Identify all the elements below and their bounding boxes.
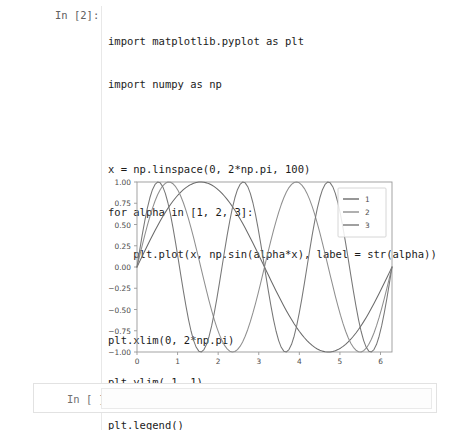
y-tick-label: −0.50 (108, 306, 131, 315)
y-tick-label: 0.75 (115, 199, 132, 208)
y-tick-label: −1.00 (108, 348, 131, 357)
code-cell[interactable]: In [2]: import matplotlib.pyplot as plt … (0, 0, 460, 175)
code-line: import matplotlib.pyplot as plt (108, 34, 438, 48)
x-tick-label: 5 (338, 357, 343, 366)
x-axis-tick-labels: 0123456 (135, 357, 384, 366)
code-line: import numpy as np (108, 77, 438, 91)
code-line (108, 120, 438, 134)
x-tick-label: 1 (175, 357, 180, 366)
y-tick-label: 0.25 (115, 242, 132, 251)
x-tick-label: 3 (256, 357, 261, 366)
y-tick-label: −0.25 (108, 284, 131, 293)
x-tick-label: 2 (216, 357, 221, 366)
input-cell[interactable]: In [ ]: (33, 383, 437, 413)
y-axis-tick-labels: 1.000.750.500.250.00−0.25−0.50−0.75−1.00 (108, 178, 131, 357)
legend-label: 3 (365, 221, 370, 230)
legend-label: 1 (365, 195, 370, 204)
figure-output: 1.000.750.500.250.00−0.25−0.50−0.75−1.00… (96, 174, 396, 366)
y-tick-label: 0.00 (115, 263, 132, 272)
sine-waves-plot: 1.000.750.500.250.00−0.25−0.50−0.75−1.00… (96, 174, 396, 366)
input-cell-editor[interactable] (101, 388, 432, 409)
x-tick-label: 6 (378, 357, 383, 366)
code-input-field[interactable] (102, 391, 431, 410)
x-tick-label: 0 (135, 357, 140, 366)
code-cell-prompt: In [2]: (55, 9, 99, 21)
y-tick-label: 0.50 (115, 221, 132, 230)
x-axis-tick-marks (137, 352, 381, 355)
code-line: plt.legend() (108, 418, 438, 430)
y-tick-label: 1.00 (115, 178, 132, 187)
plot-legend: 123 (338, 188, 386, 237)
legend-label: 2 (365, 208, 370, 217)
y-tick-label: −0.75 (108, 327, 131, 336)
x-tick-label: 4 (297, 357, 302, 366)
